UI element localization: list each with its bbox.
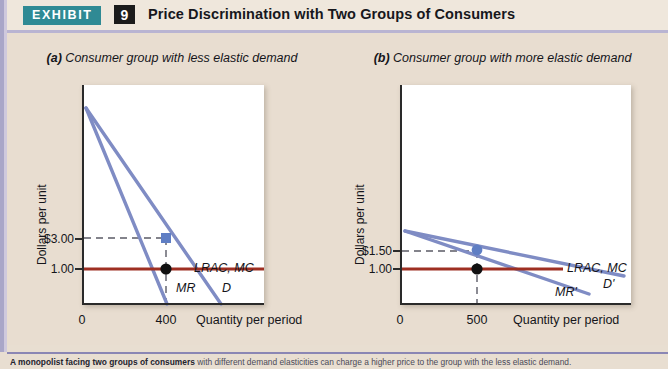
panel-a-title: (a) Consumer group with less elastic dem… [7, 51, 337, 65]
panel-b-label-d-prime: D' [603, 277, 614, 291]
panel-a-origin-label: 0 [67, 313, 97, 327]
panel-a-x-axis-label: Quantity per period [196, 313, 302, 327]
panel-a-label-lrac-mc: LRAC, MC [194, 261, 254, 275]
caption-lead: A monopolist facing two groups of consum… [10, 357, 195, 367]
panel-b-plot-area: LRAC, MC D' MR' [400, 85, 631, 305]
panel-b-price-marker [472, 245, 483, 256]
panel-b-ytick-100: 1.00 [344, 262, 392, 276]
panel-b-xtick-500: 500 [462, 313, 492, 327]
panel-a-equilibrium-marker [160, 263, 171, 274]
panel-b-equilibrium-marker [471, 263, 482, 274]
panel-b-title-text: Consumer group with more elastic demand [390, 51, 632, 65]
panel-a-price-marker [161, 233, 171, 243]
caption-divider [7, 352, 668, 354]
panel-a-title-text: Consumer group with less elastic demand [62, 51, 298, 65]
panel-a-y-axis [82, 85, 84, 305]
panel-b-label-lrac-mc: LRAC, MC [567, 261, 627, 275]
panel-b-x-axis-label: Quantity per period [513, 313, 619, 327]
panel-b-tag: (b) [374, 51, 390, 65]
panel-b-origin-label: 0 [385, 313, 415, 327]
panel-a-y-axis-label: Dollars per unit [35, 184, 49, 265]
panel-a: (a) Consumer group with less elastic dem… [7, 33, 337, 345]
panel-b-y-axis [400, 85, 402, 305]
panel-b-label-mr-prime: MR' [555, 285, 577, 299]
panel-a-label-d: D [222, 281, 231, 295]
exhibit-body: (a) Consumer group with less elastic dem… [7, 33, 668, 345]
caption-rest: with different demand elasticities can c… [195, 357, 571, 367]
panel-b-title: (b) Consumer group with more elastic dem… [337, 51, 668, 65]
panel-a-label-mr: MR [176, 281, 195, 295]
panel-b-ytick-150: $1.50 [344, 244, 392, 258]
panel-b-x-axis [400, 303, 631, 305]
panel-a-ytick-100: 1.00 [26, 262, 74, 276]
exhibit-number-badge: 9 [114, 5, 135, 24]
panel-a-xtick-400: 400 [151, 313, 181, 327]
panel-b: (b) Consumer group with more elastic dem… [337, 33, 668, 345]
panel-a-x-axis [82, 303, 264, 305]
exhibit-badge: EXHIBIT [23, 6, 101, 25]
page-title: Price Discrimination with Two Groups of … [148, 6, 515, 22]
exhibit-caption: A monopolist facing two groups of consum… [10, 357, 665, 368]
panel-a-plot-area: LRAC, MC MR D [82, 85, 264, 305]
exhibit-page: EXHIBIT 9 Price Discrimination with Two … [0, 0, 668, 369]
exhibit-header: EXHIBIT 9 Price Discrimination with Two … [7, 0, 668, 30]
panel-a-tag: (a) [47, 51, 62, 65]
panel-a-ytick-300: $3.00 [26, 232, 74, 246]
